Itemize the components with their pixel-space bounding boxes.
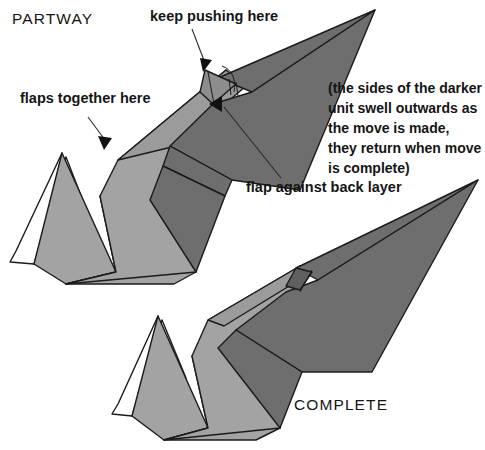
label-flaps-together: flaps together here [20, 90, 151, 106]
label-complete: COMPLETE [294, 396, 388, 413]
note-line-1: (the sides of the darker [328, 80, 483, 96]
label-flap-against: flap against back layer [246, 179, 402, 195]
note-line-2: unit swell outwards as [328, 100, 478, 116]
note-line-5: is complete) [328, 160, 410, 176]
label-keep-pushing: keep pushing here [150, 8, 278, 24]
diagram-canvas: PARTWAY COMPLETE keep pushing here flaps… [0, 0, 485, 450]
note-line-3: the move is made, [328, 120, 449, 136]
label-partway: PARTWAY [12, 10, 93, 27]
note-line-4: they return when move [328, 140, 481, 156]
origami-diagram: PARTWAY COMPLETE keep pushing here flaps… [0, 0, 485, 450]
